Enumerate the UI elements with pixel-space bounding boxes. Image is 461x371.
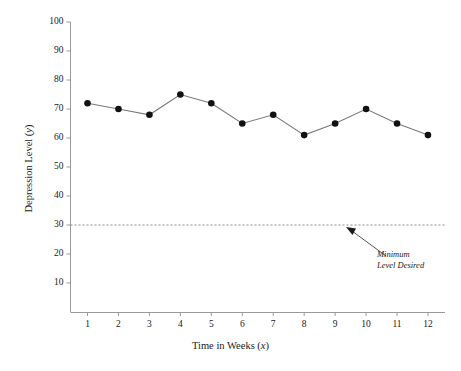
- y-axis-title: Depression Level (y): [23, 79, 34, 259]
- x-axis-title-tail: ): [266, 340, 270, 351]
- data-point: [177, 91, 184, 98]
- y-axis-tick-label: 90: [38, 46, 64, 56]
- x-axis-title-text: Time in Weeks (: [192, 340, 261, 351]
- data-point: [239, 120, 246, 127]
- y-axis-tick-label: 40: [38, 191, 64, 201]
- x-axis-title: Time in Weeks (x): [0, 340, 461, 351]
- data-point: [301, 132, 308, 139]
- y-axis-tick-label: 50: [38, 162, 64, 172]
- y-axis-tick-label: 30: [38, 220, 64, 230]
- data-point: [270, 112, 277, 119]
- data-point: [84, 100, 91, 107]
- chart-canvas: [0, 0, 461, 371]
- y-axis-tick-label: 80: [38, 75, 64, 85]
- x-axis-tick-label: 10: [355, 320, 377, 330]
- y-axis-title-text: Depression Level (: [23, 133, 34, 213]
- annotation-line-1: Minimum: [377, 249, 424, 260]
- depression-level-line-chart: 100908070605040302010 123456789101112 Ti…: [0, 0, 461, 371]
- y-axis-tick-label: 20: [38, 249, 64, 259]
- data-point: [363, 106, 370, 113]
- x-axis-tick-label: 6: [231, 320, 253, 330]
- x-axis-tick-label: 9: [324, 320, 346, 330]
- y-axis-variable: y: [23, 128, 34, 133]
- annotation-line-2: Level Desired: [377, 260, 424, 271]
- x-axis-tick-label: 2: [107, 320, 129, 330]
- x-axis-tick-label: 1: [77, 320, 99, 330]
- data-point: [146, 112, 153, 119]
- y-axis-tick-label: 10: [38, 278, 64, 288]
- data-point: [394, 120, 401, 127]
- y-axis-tick-label: 70: [38, 104, 64, 114]
- x-axis-tick-label: 4: [169, 320, 191, 330]
- minimum-level-annotation: Minimum Level Desired: [377, 249, 424, 272]
- data-point: [425, 132, 432, 139]
- x-axis-tick-label: 8: [293, 320, 315, 330]
- x-axis-tick-label: 12: [417, 320, 439, 330]
- x-axis-tick-label: 3: [138, 320, 160, 330]
- x-axis-tick-label: 5: [200, 320, 222, 330]
- data-point: [208, 100, 215, 107]
- y-axis-tick-label: 60: [38, 133, 64, 143]
- data-point: [115, 106, 122, 113]
- y-axis-tick-label: 100: [38, 17, 64, 27]
- y-axis-ticks: [67, 22, 71, 283]
- x-axis-tick-label: 11: [386, 320, 408, 330]
- data-point: [332, 120, 339, 127]
- x-axis-tick-label: 7: [262, 320, 284, 330]
- y-axis-title-tail: ): [23, 124, 34, 128]
- data-series-line: [88, 95, 428, 136]
